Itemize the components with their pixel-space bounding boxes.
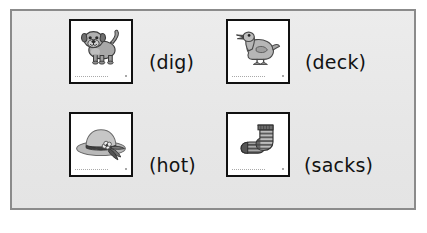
picture-card-dog[interactable] <box>69 19 133 84</box>
card-corner-mark <box>282 75 284 77</box>
socks-illustration <box>228 116 288 168</box>
word-label-hot: (hot) <box>149 156 196 175</box>
worksheet-frame: (dig) <box>10 9 416 210</box>
word-label-sacks: (sacks) <box>304 156 373 175</box>
word-label-deck: (deck) <box>305 53 366 72</box>
picture-word-item[interactable]: (sacks) <box>226 112 373 177</box>
card-corner-mark <box>125 168 127 170</box>
card-microtext <box>232 76 266 78</box>
card-microtext <box>232 169 266 171</box>
card-corner-mark <box>282 168 284 170</box>
picture-card-socks[interactable] <box>226 112 290 177</box>
word-label-dig: (dig) <box>149 53 194 72</box>
card-microtext <box>75 76 109 78</box>
picture-word-grid: (dig) <box>12 11 414 208</box>
duck-illustration <box>228 23 288 75</box>
card-microtext <box>75 169 109 171</box>
picture-word-item[interactable]: (deck) <box>226 19 366 84</box>
picture-card-hat[interactable] <box>69 112 133 177</box>
picture-card-duck[interactable] <box>226 19 290 84</box>
dog-illustration <box>71 23 131 75</box>
card-corner-mark <box>125 75 127 77</box>
hat-illustration <box>71 116 131 168</box>
picture-word-item[interactable]: (hot) <box>69 112 196 177</box>
picture-word-item[interactable]: (dig) <box>69 19 194 84</box>
